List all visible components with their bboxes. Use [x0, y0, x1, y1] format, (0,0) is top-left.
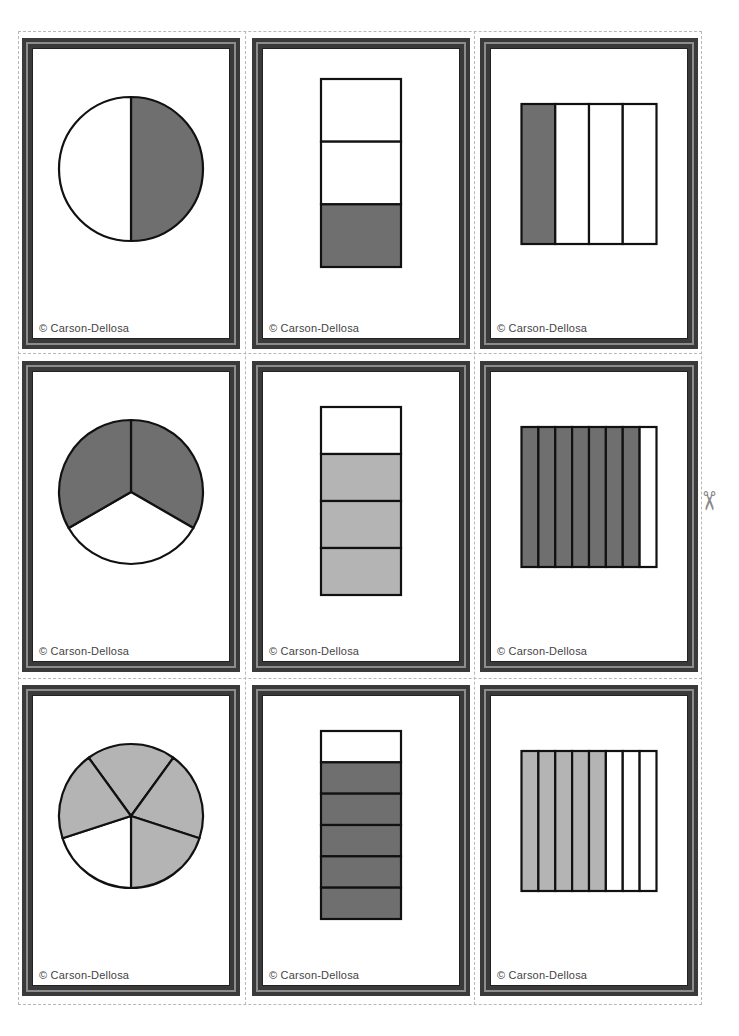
card-frame: © Carson-Dellosa	[26, 365, 236, 668]
card-face: © Carson-Dellosa	[32, 695, 230, 986]
shaded-segment	[321, 794, 401, 825]
shaded-segment	[321, 501, 401, 548]
unshaded-segment	[321, 142, 401, 205]
copyright-credit: © Carson-Dellosa	[39, 645, 129, 657]
scissors-icon: ✂	[696, 490, 722, 512]
cut-line-vertical	[245, 31, 246, 1005]
unshaded-strip	[640, 427, 657, 567]
unshaded-strip	[606, 751, 623, 891]
cut-line-horizontal	[18, 353, 702, 354]
fraction-card: © Carson-Dellosa	[22, 361, 240, 672]
unshaded-strip	[589, 104, 623, 244]
shaded-segment	[321, 856, 401, 887]
card-frame: © Carson-Dellosa	[484, 689, 694, 992]
card-frame: © Carson-Dellosa	[256, 689, 466, 992]
shaded-strip	[522, 104, 556, 244]
shaded-segment	[321, 548, 401, 595]
card-face: © Carson-Dellosa	[490, 48, 688, 339]
fraction-figure	[263, 49, 459, 338]
fraction-card: © Carson-Dellosa	[22, 38, 240, 349]
unshaded-strip	[623, 104, 657, 244]
shaded-strip	[572, 427, 589, 567]
fraction-figure	[33, 372, 229, 661]
shaded-strip	[623, 427, 640, 567]
unshaded-slice	[59, 97, 131, 241]
fraction-card: © Carson-Dellosa	[480, 361, 698, 672]
shaded-slice	[131, 97, 203, 241]
copyright-credit: © Carson-Dellosa	[269, 322, 359, 334]
fraction-figure	[491, 696, 687, 985]
copyright-credit: © Carson-Dellosa	[39, 322, 129, 334]
card-frame: © Carson-Dellosa	[484, 365, 694, 668]
card-face: © Carson-Dellosa	[490, 371, 688, 662]
fraction-figure	[263, 372, 459, 661]
unshaded-strip	[623, 751, 640, 891]
copyright-credit: © Carson-Dellosa	[497, 645, 587, 657]
cut-line-horizontal	[18, 678, 702, 679]
copyright-credit: © Carson-Dellosa	[39, 969, 129, 981]
fraction-card: © Carson-Dellosa	[22, 685, 240, 996]
cut-line-vertical	[474, 31, 475, 1005]
card-face: © Carson-Dellosa	[262, 48, 460, 339]
shaded-segment	[321, 762, 401, 793]
card-frame: © Carson-Dellosa	[26, 689, 236, 992]
fraction-card: © Carson-Dellosa	[252, 685, 470, 996]
card-face: © Carson-Dellosa	[262, 695, 460, 986]
shaded-strip	[555, 751, 572, 891]
shaded-segment	[321, 825, 401, 856]
shaded-strip	[538, 751, 555, 891]
card-face: © Carson-Dellosa	[262, 371, 460, 662]
unshaded-strip	[555, 104, 589, 244]
card-frame: © Carson-Dellosa	[256, 365, 466, 668]
card-frame: © Carson-Dellosa	[26, 42, 236, 345]
shaded-strip	[522, 427, 539, 567]
card-face: © Carson-Dellosa	[32, 48, 230, 339]
fraction-card: © Carson-Dellosa	[252, 38, 470, 349]
shaded-strip	[538, 427, 555, 567]
copyright-credit: © Carson-Dellosa	[497, 322, 587, 334]
unshaded-segment	[321, 731, 401, 762]
unshaded-strip	[640, 751, 657, 891]
copyright-credit: © Carson-Dellosa	[497, 969, 587, 981]
shaded-strip	[522, 751, 539, 891]
fraction-figure	[263, 696, 459, 985]
unshaded-segment	[321, 407, 401, 454]
copyright-credit: © Carson-Dellosa	[269, 969, 359, 981]
card-frame: © Carson-Dellosa	[484, 42, 694, 345]
fraction-card: © Carson-Dellosa	[480, 38, 698, 349]
card-frame: © Carson-Dellosa	[256, 42, 466, 345]
fraction-card: © Carson-Dellosa	[252, 361, 470, 672]
copyright-credit: © Carson-Dellosa	[269, 645, 359, 657]
shaded-segment	[321, 204, 401, 267]
unshaded-segment	[321, 79, 401, 142]
shaded-strip	[555, 427, 572, 567]
shaded-strip	[589, 751, 606, 891]
fraction-figure	[33, 696, 229, 985]
card-face: © Carson-Dellosa	[490, 695, 688, 986]
shaded-segment	[321, 454, 401, 501]
shaded-strip	[572, 751, 589, 891]
shaded-strip	[606, 427, 623, 567]
card-face: © Carson-Dellosa	[32, 371, 230, 662]
fraction-figure	[491, 372, 687, 661]
fraction-figure	[491, 49, 687, 338]
shaded-segment	[321, 888, 401, 919]
fraction-card: © Carson-Dellosa	[480, 685, 698, 996]
shaded-strip	[589, 427, 606, 567]
fraction-figure	[33, 49, 229, 338]
